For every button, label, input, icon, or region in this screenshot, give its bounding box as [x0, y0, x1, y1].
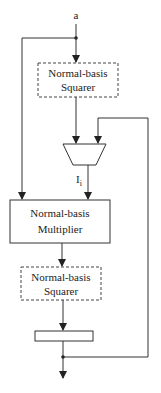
multiplier-label-line1: Normal-basis — [30, 207, 89, 219]
top-squarer-label-line1: Normal-basis — [48, 67, 107, 79]
normal-basis-inversion-diagram: a Normal-basis Squarer Ii Normal-basis M… — [0, 0, 161, 393]
input-label-a: a — [74, 9, 79, 21]
multiplier-label-line2: Multiplier — [38, 223, 83, 235]
multiplexer — [63, 144, 106, 165]
bottom-squarer-label-line2: Squarer — [44, 285, 79, 297]
bypass-wire-to-multiplier — [22, 38, 76, 199]
bottom-squarer-label-line1: Normal-basis — [31, 271, 90, 283]
top-squarer-label-line2: Squarer — [61, 81, 96, 93]
top-squarer-block: Normal-basis Squarer — [38, 63, 118, 97]
multiplier-block: Normal-basis Multiplier — [10, 200, 110, 243]
mux-output-label: Ii — [76, 173, 83, 188]
register-box — [35, 331, 93, 341]
bottom-squarer-block: Normal-basis Squarer — [21, 267, 101, 300]
